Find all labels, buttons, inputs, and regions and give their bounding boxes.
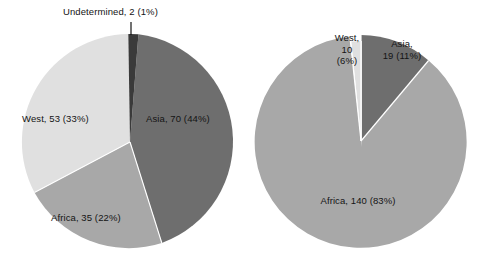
left-pie-svg bbox=[0, 0, 243, 269]
right-label-west-line3: (6%) bbox=[337, 55, 357, 66]
right-label-asia-line1: Asia, bbox=[391, 38, 413, 49]
left-label-africa: Africa, 35 (22%) bbox=[51, 212, 121, 224]
right-label-asia-line2: 19 (11%) bbox=[383, 50, 422, 61]
left-label-west: West, 53 (33%) bbox=[22, 113, 89, 125]
right-pie-chart: West, 10 (6%) Asia, 19 (11%) Africa, 140… bbox=[243, 0, 485, 269]
right-label-asia: Asia, 19 (11%) bbox=[371, 38, 433, 61]
figure-canvas: Undetermined, 2 (1%) Asia, 70 (44%) West… bbox=[0, 0, 485, 269]
left-label-asia: Asia, 70 (44%) bbox=[146, 113, 210, 125]
right-label-west: West, 10 (6%) bbox=[326, 32, 368, 67]
left-label-undetermined: Undetermined, 2 (1%) bbox=[63, 6, 158, 18]
left-pie-chart: Undetermined, 2 (1%) Asia, 70 (44%) West… bbox=[0, 0, 243, 269]
right-label-west-line1: West, bbox=[335, 32, 360, 43]
right-label-africa: Africa, 140 (83%) bbox=[298, 195, 418, 207]
right-label-west-line2: 10 bbox=[342, 44, 353, 55]
